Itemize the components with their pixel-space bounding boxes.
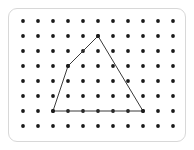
grid-dot — [66, 94, 70, 98]
grid-dot — [36, 19, 40, 23]
grid-dot — [21, 94, 25, 98]
polygon-vertex-dot — [96, 34, 100, 38]
grid-dot — [21, 64, 25, 68]
figure-stage — [0, 0, 194, 150]
grid-dot — [156, 109, 160, 113]
grid-dot — [126, 19, 130, 23]
grid-dot — [111, 64, 115, 68]
grid-dot — [111, 79, 115, 83]
dot-grid-figure — [0, 0, 194, 150]
grid-dot — [156, 94, 160, 98]
grid-dot — [111, 19, 115, 23]
grid-dot — [51, 49, 55, 53]
grid-dot — [171, 64, 175, 68]
grid-dot — [126, 124, 130, 128]
grid-dot — [141, 34, 145, 38]
polygon-vertex-dot — [51, 109, 55, 113]
grid-dot — [156, 19, 160, 23]
grid-dot — [21, 79, 25, 83]
grid-dot — [36, 64, 40, 68]
grid-dot — [111, 49, 115, 53]
grid-dot — [21, 124, 25, 128]
grid-dot — [51, 124, 55, 128]
grid-dot — [141, 94, 145, 98]
grid-dot — [156, 34, 160, 38]
grid-dot — [36, 109, 40, 113]
grid-dot — [126, 64, 130, 68]
grid-dot — [66, 19, 70, 23]
grid-dot — [171, 49, 175, 53]
grid-dot — [111, 124, 115, 128]
grid-dot — [156, 79, 160, 83]
grid-dot — [51, 79, 55, 83]
grid-dot — [36, 79, 40, 83]
grid-dot — [21, 49, 25, 53]
grid-dot — [66, 49, 70, 53]
grid-dot — [96, 79, 100, 83]
grid-dot — [81, 124, 85, 128]
grid-dot — [141, 64, 145, 68]
grid-dot — [51, 94, 55, 98]
grid-dot — [156, 124, 160, 128]
grid-dot — [81, 94, 85, 98]
grid-dot — [21, 34, 25, 38]
grid-dot — [66, 34, 70, 38]
grid-dot — [21, 109, 25, 113]
grid-dot — [21, 19, 25, 23]
grid-dot — [81, 34, 85, 38]
grid-dot — [36, 34, 40, 38]
grid-dot — [156, 64, 160, 68]
grid-dot — [51, 64, 55, 68]
grid-dot — [111, 34, 115, 38]
grid-dot — [81, 19, 85, 23]
grid-dot — [51, 19, 55, 23]
grid-dot — [171, 109, 175, 113]
grid-dot — [171, 124, 175, 128]
grid-dot — [36, 49, 40, 53]
grid-dot — [66, 79, 70, 83]
grid-dot — [126, 94, 130, 98]
grid-dot — [81, 79, 85, 83]
grid-dot — [36, 94, 40, 98]
grid-dot — [96, 94, 100, 98]
grid-dot — [96, 124, 100, 128]
grid-dot — [171, 34, 175, 38]
grid-dot — [171, 94, 175, 98]
grid-dot — [81, 64, 85, 68]
polygon-vertex-dot — [66, 64, 70, 68]
grid-dot — [141, 49, 145, 53]
grid-dot — [66, 124, 70, 128]
grid-dot — [96, 64, 100, 68]
grid-dot — [96, 49, 100, 53]
triangle-outline — [53, 36, 143, 111]
grid-dot — [51, 34, 55, 38]
grid-dot — [156, 49, 160, 53]
grid-dot — [111, 94, 115, 98]
polygon-vertex-dot — [141, 109, 145, 113]
grid-dot — [126, 34, 130, 38]
grid-dot — [36, 124, 40, 128]
grid-dot — [126, 49, 130, 53]
grid-dot — [141, 124, 145, 128]
polygon-layer — [51, 34, 145, 113]
grid-dot — [126, 79, 130, 83]
grid-dot — [171, 19, 175, 23]
grid-dot — [171, 79, 175, 83]
grid-dot — [96, 19, 100, 23]
grid-dot — [141, 79, 145, 83]
grid-dot — [141, 19, 145, 23]
